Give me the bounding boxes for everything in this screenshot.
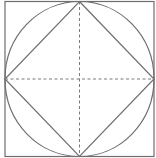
geometry-diagram	[0, 0, 156, 158]
